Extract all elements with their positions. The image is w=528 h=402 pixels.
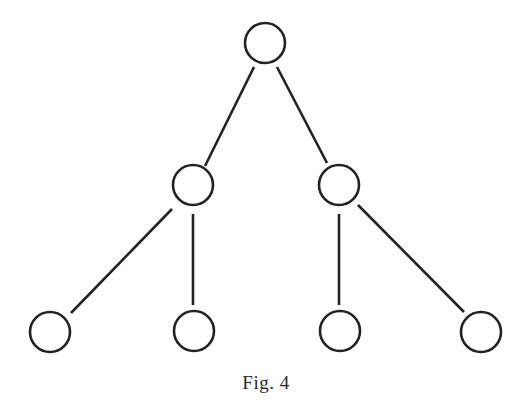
edge-root-to-left-child — [205, 67, 254, 166]
binary-tree-diagram — [0, 0, 528, 402]
tree-nodes — [30, 23, 501, 352]
node-leaf-4 — [461, 312, 501, 352]
node-left-child — [173, 165, 213, 205]
edge-root-to-right-child — [277, 67, 327, 163]
node-leaf-2 — [174, 311, 214, 351]
node-leaf-1 — [30, 312, 70, 352]
edge-left-child-to-leaf-1 — [71, 209, 172, 313]
node-right-child — [319, 165, 359, 205]
figure-caption: Fig. 4 — [0, 372, 528, 394]
edge-right-child-to-leaf-4 — [358, 205, 464, 312]
node-root — [245, 23, 285, 63]
figure-canvas: Fig. 4 — [0, 0, 528, 402]
node-leaf-3 — [320, 311, 360, 351]
tree-edges — [71, 67, 464, 313]
